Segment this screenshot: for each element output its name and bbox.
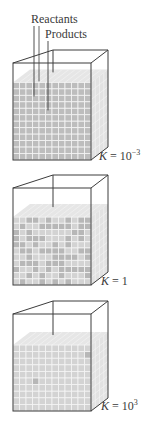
product-cell (39, 404, 46, 411)
product-cell (72, 378, 79, 385)
k-label-one: K = 1 (100, 274, 128, 288)
product-cell (78, 365, 85, 372)
product-cell (46, 391, 53, 398)
reactant-cell (52, 115, 59, 121)
reactants-label: Reactants (31, 12, 78, 26)
product-cell (65, 352, 72, 359)
product-cell (52, 358, 59, 365)
product-cell (39, 254, 46, 260)
reactant-cell (26, 147, 33, 153)
reactant-cell (85, 254, 92, 260)
reactant-cell (72, 108, 79, 114)
reactant-cell (72, 95, 79, 101)
product-cell (26, 223, 33, 229)
reactant-cell (20, 108, 27, 114)
product-cell (39, 229, 46, 235)
reactant-cell (20, 242, 27, 248)
container-k-1 (13, 175, 108, 285)
product-cell (33, 398, 40, 405)
product-cell (20, 404, 27, 411)
product-cell (59, 242, 66, 248)
product-cell (26, 404, 33, 411)
reactant-cell (39, 248, 46, 254)
product-cell (72, 217, 79, 223)
reactant-cell (39, 115, 46, 121)
reactant-cell (65, 242, 72, 248)
reactant-cell (46, 95, 53, 101)
reactant-cell (26, 102, 33, 108)
reactant-cell (46, 217, 53, 223)
reactant-cell (65, 108, 72, 114)
reactant-cell (33, 128, 40, 134)
reactant-cell (39, 128, 46, 134)
reactant-cell (46, 147, 53, 153)
reactant-cell (65, 147, 72, 153)
reactant-cell (72, 82, 79, 88)
product-cell (85, 236, 92, 242)
product-cell (26, 242, 33, 248)
product-cell (33, 273, 40, 279)
product-cell (46, 242, 53, 248)
product-cell (20, 229, 27, 235)
product-cell (72, 345, 79, 352)
reactant-cell (26, 236, 33, 242)
product-cell (20, 217, 27, 223)
product-cell (59, 229, 66, 235)
reactant-cell (72, 121, 79, 127)
reactant-cell (26, 128, 33, 134)
product-cell (13, 352, 20, 359)
product-cell (78, 398, 85, 405)
product-cell (59, 398, 66, 405)
product-cell (33, 279, 40, 285)
reactant-cell (26, 141, 33, 147)
reactant-cell (20, 115, 27, 121)
product-cell (13, 385, 20, 392)
reactant-cell (33, 121, 40, 127)
reactant-cell (78, 121, 85, 127)
reactant-cell (59, 260, 66, 266)
reactant-cell (20, 248, 27, 254)
reactant-cell (13, 89, 20, 95)
product-cell (20, 266, 27, 272)
reactant-cell (39, 108, 46, 114)
product-cell (78, 391, 85, 398)
reactant-cell (26, 89, 33, 95)
product-cell (26, 378, 33, 385)
reactant-cell (52, 260, 59, 266)
product-cell (52, 352, 59, 359)
reactant-cell (59, 102, 66, 108)
product-cell (78, 358, 85, 365)
product-cell (52, 229, 59, 235)
reactant-cell (46, 128, 53, 134)
product-cell (33, 391, 40, 398)
reactant-cell (72, 154, 79, 160)
reactant-cell (59, 254, 66, 260)
reactant-cell (52, 279, 59, 285)
product-cell (65, 365, 72, 372)
reactant-cell (59, 273, 66, 279)
product-cell (52, 378, 59, 385)
reactant-cell (52, 254, 59, 260)
reactant-cell (46, 266, 53, 272)
reactant-cell (78, 108, 85, 114)
product-cell (72, 260, 79, 266)
product-cell (13, 358, 20, 365)
reactant-cell (26, 82, 33, 88)
reactant-cell (33, 134, 40, 140)
product-cell (46, 279, 53, 285)
product-cell (13, 223, 20, 229)
product-cell (26, 352, 33, 359)
reactant-cell (78, 115, 85, 121)
product-cell (59, 358, 66, 365)
reactant-cell (20, 121, 27, 127)
product-cell (78, 404, 85, 411)
reactant-cell (39, 147, 46, 153)
reactant-cell (26, 229, 33, 235)
product-cell (72, 365, 79, 372)
reactant-cell (13, 115, 20, 121)
reactant-cell (26, 254, 33, 260)
reactant-cell (85, 128, 92, 134)
product-cell (20, 398, 27, 405)
product-cell (65, 371, 72, 378)
k-label-small: K = 10−3 (98, 148, 140, 163)
